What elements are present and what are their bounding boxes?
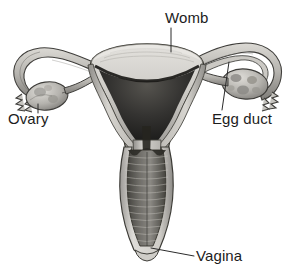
uterus-womb bbox=[88, 44, 206, 160]
vagina bbox=[120, 147, 173, 261]
anatomy-illustration bbox=[0, 0, 294, 274]
label-ovary: Ovary bbox=[8, 111, 49, 126]
anatomy-figure: Womb Ovary Egg duct Vagina bbox=[0, 0, 294, 274]
label-womb: Womb bbox=[165, 10, 208, 25]
label-vagina: Vagina bbox=[196, 248, 242, 263]
label-egg-duct: Egg duct bbox=[212, 111, 272, 126]
